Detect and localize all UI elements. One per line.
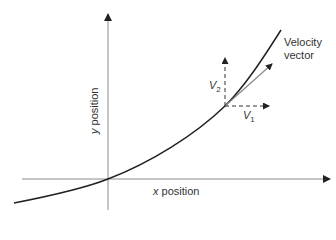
trajectory-curve (14, 30, 281, 203)
v1-label-sub: 1 (250, 115, 254, 124)
v2-label-sub: 2 (216, 85, 220, 94)
v2-label: V2 (209, 79, 221, 94)
v1-label: V1 (243, 109, 255, 124)
velocity-vector-label: Velocity vector (284, 36, 322, 62)
y-axis-label: y position (88, 88, 100, 134)
y-axis-label-text: position (88, 88, 100, 129)
velocity-vector-arrow (225, 64, 272, 106)
y-axis-label-var: y (88, 129, 100, 135)
x-axis-label: x position (153, 185, 199, 197)
velocity-label-line2: vector (284, 49, 322, 62)
x-axis-label-text: position (159, 185, 200, 197)
velocity-label-line1: Velocity (284, 36, 322, 49)
